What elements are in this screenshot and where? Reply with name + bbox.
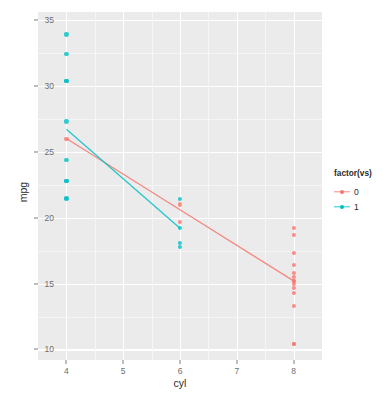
y-tick-label: 25: [45, 147, 54, 157]
y-tick-mark: [34, 283, 38, 284]
legend: factor(vs) 01: [334, 168, 372, 214]
legend-item-label: 0: [354, 187, 359, 197]
legend-item-0[interactable]: 0: [334, 184, 372, 199]
regression-line-layer: [38, 12, 322, 360]
legend-item-label: 1: [354, 202, 359, 212]
legend-key-icon: [334, 199, 350, 214]
x-tick-mark: [293, 360, 294, 364]
x-tick-mark: [180, 360, 181, 364]
y-tick-mark: [34, 85, 38, 86]
x-tick-label: 8: [291, 366, 296, 376]
legend-key-icon: [334, 184, 350, 199]
y-tick-mark: [34, 349, 38, 350]
y-tick-label: 15: [45, 279, 54, 289]
x-tick-mark: [123, 360, 124, 364]
y-tick-mark: [34, 19, 38, 20]
y-tick-label: 30: [45, 81, 54, 91]
x-axis-title: cyl: [38, 377, 322, 389]
legend-entries: 01: [334, 184, 372, 214]
x-tick-label: 5: [121, 366, 126, 376]
y-tick-mark: [34, 217, 38, 218]
chart-root: 101520253035 45678 mpg cyl factor(vs) 01: [0, 0, 386, 398]
regression-line-1: [66, 129, 180, 228]
legend-title: factor(vs): [334, 168, 372, 178]
x-tick-label: 4: [64, 366, 69, 376]
y-tick-label: 20: [45, 213, 54, 223]
x-tick-label: 6: [178, 366, 183, 376]
plot-panel: [38, 12, 322, 360]
regression-line-0: [66, 139, 293, 281]
y-tick-label: 35: [45, 15, 54, 25]
y-axis-title: mpg: [17, 162, 29, 222]
x-tick-mark: [66, 360, 67, 364]
x-tick-label: 7: [234, 366, 239, 376]
y-tick-mark: [34, 151, 38, 152]
legend-item-1[interactable]: 1: [334, 199, 372, 214]
x-tick-mark: [236, 360, 237, 364]
y-tick-label: 10: [45, 344, 54, 354]
